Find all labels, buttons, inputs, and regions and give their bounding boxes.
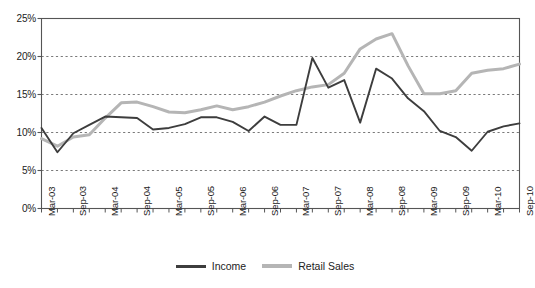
legend-swatch-retail-sales: [262, 264, 292, 268]
plot-border: [42, 19, 520, 209]
x-tick-label: Sep-06: [269, 185, 280, 215]
x-tick-label: Sep-03: [77, 185, 88, 215]
x-tick-label: Sep-09: [460, 185, 471, 215]
data-series: [42, 34, 520, 153]
series-line-income: [42, 58, 520, 152]
gridlines: [42, 57, 520, 171]
x-tick-label: Sep-08: [396, 185, 407, 215]
x-tick-label: Mar-07: [300, 186, 311, 216]
y-tick-label: 15%: [2, 89, 36, 100]
chart-legend: IncomeRetail Sales: [0, 261, 530, 272]
y-axis-ticks: [38, 19, 42, 209]
x-tick-label: Mar-04: [109, 186, 120, 216]
legend-swatch-income: [176, 265, 206, 268]
legend-label: Income: [212, 261, 246, 272]
legend-label: Retail Sales: [298, 261, 354, 272]
x-tick-label: Sep-07: [332, 185, 343, 215]
x-tick-label: Sep-10: [524, 185, 535, 215]
legend-item[interactable]: Income: [176, 261, 246, 272]
x-tick-label: Mar-06: [237, 186, 248, 216]
series-line-retail-sales: [42, 34, 520, 146]
x-tick-label: Sep-04: [141, 185, 152, 215]
y-tick-label: 10%: [2, 127, 36, 138]
x-tick-label: Sep-05: [205, 185, 216, 215]
y-tick-label: 0%: [2, 203, 36, 214]
y-tick-label: 25%: [2, 13, 36, 24]
y-tick-label: 5%: [2, 165, 36, 176]
y-tick-label: 20%: [2, 51, 36, 62]
x-tick-label: Mar-03: [46, 186, 57, 216]
x-tick-label: Mar-05: [173, 186, 184, 216]
x-tick-label: Mar-08: [364, 186, 375, 216]
x-tick-label: Mar-09: [428, 186, 439, 216]
x-tick-label: Mar-10: [492, 186, 503, 216]
plot-frame: [42, 19, 520, 209]
legend-item[interactable]: Retail Sales: [262, 261, 354, 272]
